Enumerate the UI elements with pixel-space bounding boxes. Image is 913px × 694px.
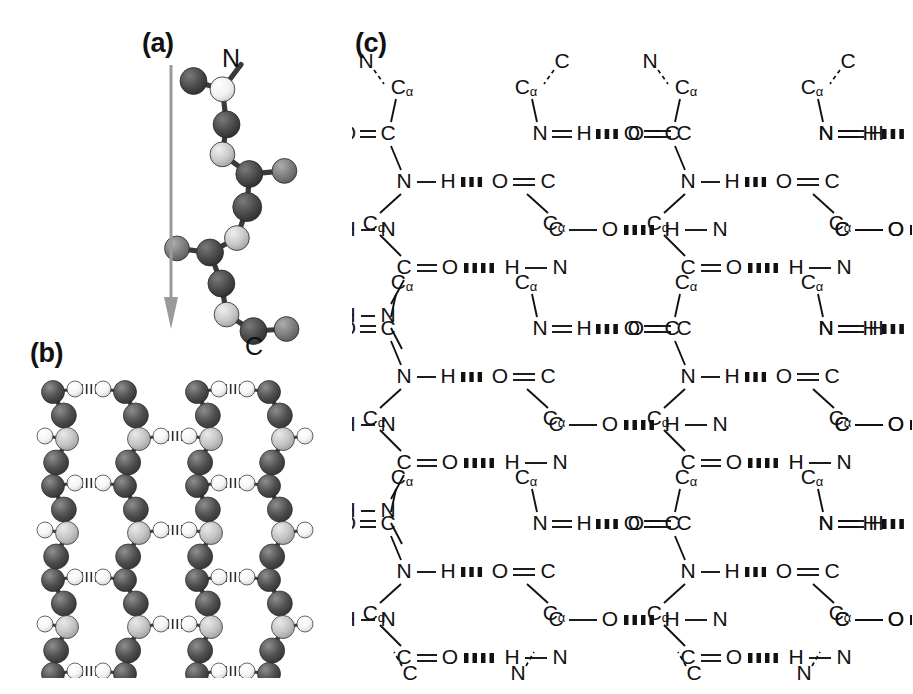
svg-text:C: C	[824, 364, 839, 387]
svg-text:H: H	[352, 607, 356, 630]
svg-text:C: C	[540, 559, 555, 582]
svg-text:H: H	[724, 169, 739, 192]
svg-text:N: N	[680, 169, 695, 192]
svg-text:N: N	[836, 645, 851, 668]
svg-text:N: N	[680, 559, 695, 582]
svg-text:C: C	[664, 511, 679, 534]
svg-text:N: N	[818, 511, 833, 534]
svg-text:N: N	[680, 364, 695, 387]
svg-text:C: C	[548, 412, 563, 435]
svg-text:N: N	[836, 450, 851, 473]
chain-direction-arrow-icon	[164, 65, 178, 330]
svg-text:N: N	[510, 661, 525, 684]
svg-text:C: C	[548, 217, 563, 240]
svg-text:N: N	[642, 49, 657, 72]
svg-text:N: N	[532, 511, 547, 534]
svg-text:C: C	[840, 49, 855, 72]
panel-c-structure-svg: NCCαOCNHOCCαCOHNHNCαOCNHOCCαCOHNHNCαOCNH…	[352, 48, 912, 688]
svg-text:C: C	[540, 169, 555, 192]
svg-text:H: H	[664, 607, 679, 630]
svg-text:Cα: Cα	[391, 75, 414, 100]
panel-a-c-terminus-label: C	[245, 332, 263, 361]
svg-text:C: C	[824, 559, 839, 582]
svg-text:C: C	[834, 217, 849, 240]
svg-text:Cα: Cα	[515, 465, 538, 490]
svg-text:N: N	[552, 450, 567, 473]
svg-text:C: C	[664, 121, 679, 144]
svg-text:C: C	[554, 49, 569, 72]
svg-text:C: C	[380, 511, 395, 534]
svg-text:O: O	[776, 559, 792, 582]
svg-text:O: O	[352, 316, 356, 339]
svg-text:O: O	[726, 255, 742, 278]
svg-text:C: C	[834, 412, 849, 435]
svg-text:H: H	[576, 121, 591, 144]
svg-text:N: N	[818, 121, 833, 144]
svg-text:H: H	[576, 511, 591, 534]
svg-text:O: O	[492, 559, 508, 582]
svg-text:O: O	[602, 217, 618, 240]
svg-text:O: O	[352, 121, 356, 144]
svg-text:C: C	[834, 607, 849, 630]
svg-text:C: C	[380, 316, 395, 339]
svg-text:H: H	[724, 364, 739, 387]
svg-text:C: C	[680, 645, 695, 668]
svg-text:N: N	[712, 412, 727, 435]
panel-b-sheet-model	[28, 378, 318, 678]
svg-text:N: N	[396, 169, 411, 192]
svg-text:O: O	[888, 412, 904, 435]
svg-text:H: H	[440, 364, 455, 387]
svg-text:N: N	[552, 645, 567, 668]
svg-text:H: H	[664, 217, 679, 240]
svg-text:H: H	[664, 412, 679, 435]
svg-text:O: O	[442, 255, 458, 278]
panel-a-chain-svg	[130, 50, 350, 360]
svg-text:N: N	[836, 255, 851, 278]
panel-c-chemical-diagram: NCCαOCNHOCCαCOHNHNCαOCNHOCCαCOHNHNCαOCNH…	[352, 48, 912, 688]
svg-text:C: C	[540, 364, 555, 387]
svg-text:O: O	[624, 316, 640, 339]
svg-text:H: H	[352, 412, 356, 435]
svg-text:Cα: Cα	[801, 270, 824, 295]
svg-text:N: N	[396, 364, 411, 387]
svg-text:O: O	[726, 645, 742, 668]
svg-text:O: O	[352, 511, 356, 534]
svg-text:Cα: Cα	[675, 75, 698, 100]
svg-text:O: O	[602, 607, 618, 630]
svg-text:C: C	[824, 169, 839, 192]
svg-text:N: N	[552, 255, 567, 278]
svg-text:H: H	[868, 121, 883, 144]
svg-text:Cα: Cα	[801, 75, 824, 100]
svg-text:N: N	[380, 607, 395, 630]
svg-text:O: O	[888, 217, 904, 240]
svg-text:O: O	[776, 364, 792, 387]
svg-text:H: H	[868, 511, 883, 534]
svg-text:H: H	[352, 217, 356, 240]
svg-text:O: O	[726, 450, 742, 473]
svg-text:O: O	[624, 511, 640, 534]
svg-text:N: N	[796, 661, 811, 684]
svg-text:O: O	[888, 607, 904, 630]
svg-text:N: N	[712, 607, 727, 630]
svg-text:H: H	[440, 169, 455, 192]
svg-text:O: O	[442, 450, 458, 473]
svg-text:H: H	[440, 559, 455, 582]
svg-text:N: N	[818, 316, 833, 339]
svg-text:C: C	[396, 645, 411, 668]
svg-text:Cα: Cα	[515, 270, 538, 295]
svg-text:N: N	[358, 49, 373, 72]
svg-text:O: O	[492, 169, 508, 192]
svg-text:N: N	[396, 559, 411, 582]
svg-text:O: O	[492, 364, 508, 387]
svg-text:C: C	[548, 607, 563, 630]
panel-a-n-terminus-label: N	[222, 44, 240, 73]
svg-text:C: C	[664, 316, 679, 339]
panel-b-label: (b)	[30, 338, 63, 369]
svg-text:H: H	[576, 316, 591, 339]
svg-text:O: O	[602, 412, 618, 435]
svg-text:O: O	[442, 645, 458, 668]
svg-text:Cα: Cα	[515, 75, 538, 100]
svg-text:O: O	[624, 121, 640, 144]
svg-text:Cα: Cα	[801, 465, 824, 490]
svg-text:C: C	[380, 121, 395, 144]
